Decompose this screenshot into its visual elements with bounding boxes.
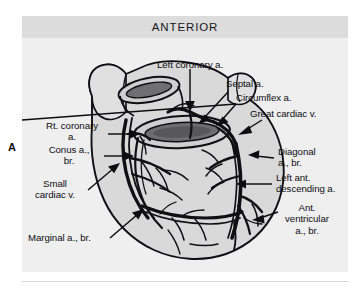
heart-anatomy-illustration — [22, 16, 348, 272]
figure-panel: ANTERIOR — [22, 16, 348, 272]
bottom-rule — [22, 281, 348, 282]
right-auricle — [228, 74, 256, 105]
panel-letter: A — [8, 141, 16, 153]
